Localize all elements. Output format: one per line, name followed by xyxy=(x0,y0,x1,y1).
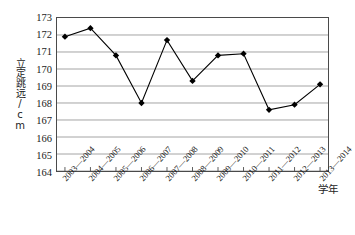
y-axis-tick-label: 166 xyxy=(26,132,52,143)
y-axis-tick-label: 169 xyxy=(26,80,52,91)
gridlines xyxy=(57,35,328,171)
x-axis-title: 学年 xyxy=(318,184,338,195)
y-axis-tick-label: 164 xyxy=(26,167,52,178)
data-point-marker xyxy=(266,107,272,113)
data-point-marker xyxy=(240,51,246,57)
data-point-marker xyxy=(164,37,170,43)
y-axis-tick-label: 167 xyxy=(26,115,52,126)
y-axis-tick-label: 170 xyxy=(26,63,52,74)
x-axis-ticks xyxy=(65,167,320,171)
data-point-marker xyxy=(62,34,68,40)
y-axis-tick-label: 173 xyxy=(26,12,52,23)
line-chart: 立定跳远/cm 173172171170169168167166165164 2… xyxy=(0,0,355,235)
data-point-marker xyxy=(138,100,144,106)
y-axis-tick-label: 171 xyxy=(26,46,52,57)
y-axis-tick-labels: 173172171170169168167166165164 xyxy=(26,11,52,175)
plot-area xyxy=(56,17,329,172)
y-axis-tick-label: 172 xyxy=(26,29,52,40)
y-axis-tick-label: 168 xyxy=(26,98,52,109)
plot-svg xyxy=(57,18,328,171)
y-axis-tick-label: 165 xyxy=(26,149,52,160)
